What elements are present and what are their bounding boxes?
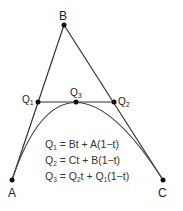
equation-q3: Q3 = Q2t + Q1(1−t): [45, 170, 129, 186]
equation-q1: Q1 = Bt + A(1−t): [45, 138, 129, 154]
point-a: [10, 178, 15, 183]
eq3-lhs-sub: 3: [53, 176, 57, 183]
label-q1-text: Q: [22, 94, 30, 105]
point-q1: [36, 100, 41, 105]
label-q2-text: Q: [118, 96, 126, 107]
label-a: A: [8, 187, 16, 199]
point-c: [161, 178, 166, 183]
eq2-lhs-sub: 2: [53, 160, 57, 167]
eq3-rhs-c: (1−t): [107, 170, 129, 182]
equations: Q1 = Bt + A(1−t) Q2 = Ct + B(1−t) Q3 = Q…: [45, 138, 129, 186]
eq1-lhs: Q: [45, 138, 53, 150]
label-q2: Q2: [118, 96, 130, 111]
eq3-lhs: Q: [45, 170, 53, 182]
label-q1-sub: 1: [30, 99, 34, 106]
label-q3: Q3: [70, 87, 82, 102]
equation-q2: Q2 = Ct + B(1−t): [45, 154, 129, 170]
label-c: C: [158, 187, 167, 199]
eq2-lhs: Q: [45, 154, 53, 166]
label-q2-sub: 2: [126, 101, 130, 108]
label-q3-text: Q: [70, 87, 78, 98]
point-b: [62, 23, 67, 28]
eq2-rhs: = Ct + B(1−t): [60, 154, 120, 166]
label-c-text: C: [158, 186, 167, 200]
label-q3-sub: 3: [78, 92, 82, 99]
eq3-rhs-b: t + Q: [81, 170, 104, 182]
point-q2: [112, 100, 117, 105]
label-a-text: A: [8, 186, 16, 200]
label-b: B: [59, 10, 67, 22]
label-b-text: B: [59, 9, 67, 23]
eq1-lhs-sub: 1: [53, 144, 57, 151]
eq1-rhs: = Bt + A(1−t): [60, 138, 119, 150]
eq3-rhs-a: = Q: [60, 170, 77, 182]
label-q1: Q1: [22, 94, 34, 109]
